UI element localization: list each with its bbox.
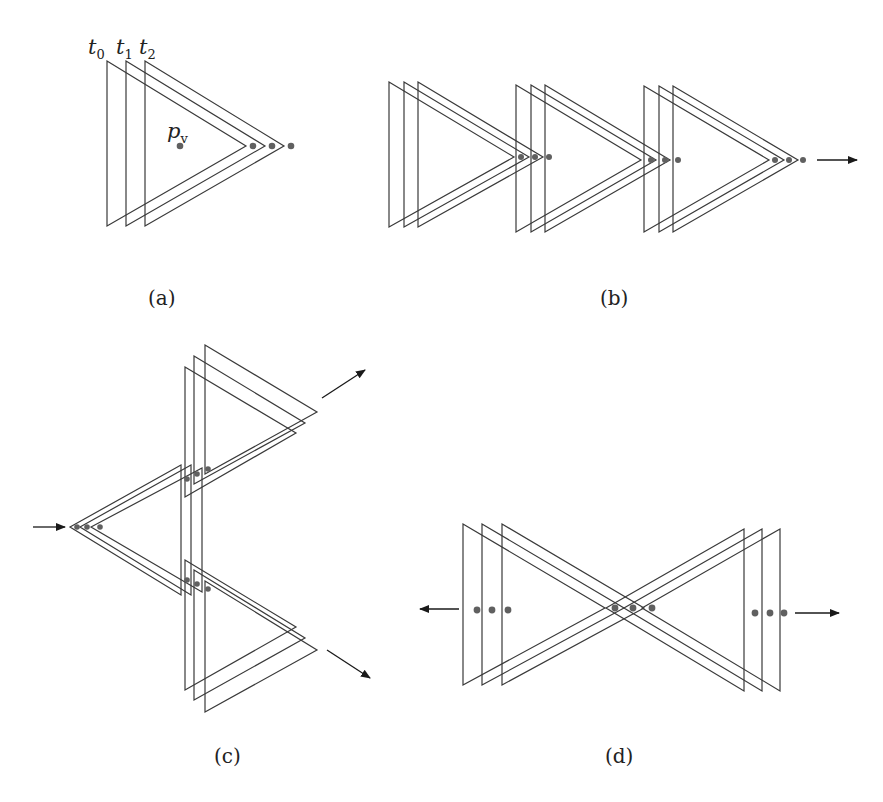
vertex-dot — [752, 610, 759, 617]
motion-arrow-down-right — [327, 650, 370, 678]
vertex-dot — [532, 154, 538, 160]
vertex-dot — [489, 607, 496, 614]
vertex-dot — [194, 581, 200, 587]
triangle — [70, 465, 181, 595]
vertex-dot — [518, 154, 524, 160]
vertex-dot — [474, 607, 481, 614]
vertex-dot — [205, 466, 211, 472]
triangle — [194, 356, 305, 484]
vertex-dot — [74, 524, 80, 530]
vertex-dot — [269, 143, 276, 150]
vertex-dot — [184, 476, 190, 482]
vertex-dot — [546, 154, 552, 160]
vertex-dot — [767, 610, 774, 617]
motion-arrow-up-right — [322, 370, 365, 398]
triangle — [463, 524, 605, 685]
vertex-dot — [505, 607, 512, 614]
vertex-dot — [250, 143, 257, 150]
vertex-dot — [84, 524, 90, 530]
triangle — [205, 345, 317, 474]
vertex-dot — [205, 586, 211, 592]
vertex-dot — [675, 157, 681, 163]
vertex-dot — [649, 605, 656, 612]
triangle-t0 — [107, 61, 246, 226]
point-label-pv: pv — [167, 119, 188, 146]
time-label-t2: t2 — [139, 35, 156, 62]
vertex-dot — [184, 577, 190, 583]
vertex-dot — [786, 157, 792, 163]
vertex-dot — [781, 610, 788, 617]
vertex-dot — [662, 157, 668, 163]
triangle — [642, 529, 780, 691]
panel-a: t0 t1 t2 pv (a) — [88, 35, 294, 310]
figure-canvas: t0 t1 t2 pv (a) ( — [0, 0, 883, 802]
time-label-t0: t0 — [88, 35, 105, 62]
vertex-dot — [288, 143, 295, 150]
caption-d: (d) — [605, 744, 633, 768]
panel-c: (c) — [33, 345, 370, 768]
vertex-dot — [97, 524, 103, 530]
caption-a: (a) — [148, 286, 176, 310]
panel-d: (d) — [420, 524, 839, 768]
triangle — [389, 82, 514, 227]
vertex-dot — [648, 157, 654, 163]
caption-b: (b) — [600, 286, 628, 310]
vertex-dot — [612, 605, 619, 612]
vertex-dot — [772, 157, 778, 163]
panel-b: (b) — [389, 82, 857, 310]
time-label-t1: t1 — [116, 35, 133, 62]
vertex-dot — [800, 157, 806, 163]
vertex-dot — [194, 471, 200, 477]
vertex-dot — [630, 605, 637, 612]
triangle — [673, 86, 798, 232]
caption-c: (c) — [214, 744, 241, 768]
